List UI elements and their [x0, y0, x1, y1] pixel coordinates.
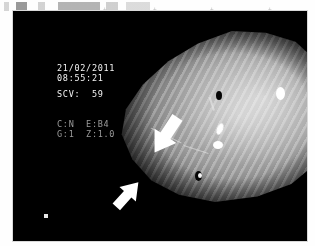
scv-value-overlay: SCV: 59 — [57, 89, 104, 99]
white-square-marker — [44, 214, 48, 218]
endoscopy-video-frame: 21/02/2011 08:55:21 SCV: 59 C:N E:B4 G:1… — [13, 11, 307, 241]
timestamp-overlay: 21/02/2011 08:55:21 — [57, 63, 115, 83]
capture-parameters-overlay: C:N E:B4 G:1 Z:1.0 — [57, 119, 115, 139]
scanned-page: + + + + 21/02/2011 08:55:21 SCV: 59 C:N … — [0, 0, 315, 246]
